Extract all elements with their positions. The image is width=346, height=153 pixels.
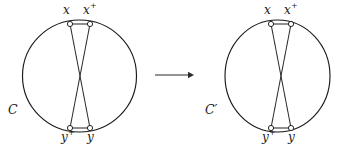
label-node-x-plus-right: x+ bbox=[284, 4, 297, 16]
label-curve-c-prime: C′ bbox=[205, 104, 217, 117]
superscript-plus-icon: + bbox=[68, 128, 75, 137]
label-node-y-plus-right: y+ bbox=[262, 131, 275, 143]
label-curve-c: C bbox=[8, 104, 18, 117]
superscript-plus-icon: + bbox=[291, 1, 298, 10]
label-node-x-plus-left: x+ bbox=[83, 4, 96, 16]
circle-c-prime-outline bbox=[225, 20, 330, 132]
node-x-plus-left[interactable] bbox=[87, 21, 92, 26]
node-x-left[interactable] bbox=[67, 21, 72, 26]
label-node-y-right: y bbox=[288, 131, 295, 143]
panel-left bbox=[23, 20, 137, 132]
label-node-y-left: y bbox=[87, 131, 94, 143]
node-x-right[interactable] bbox=[268, 21, 273, 26]
arrow-head bbox=[188, 72, 194, 78]
label-node-y-plus-left: y+ bbox=[61, 131, 74, 143]
figure-root: x x+ y+ y C x x+ y+ y C′ bbox=[0, 0, 346, 153]
superscript-plus-icon: + bbox=[90, 1, 97, 10]
label-node-x-right: x bbox=[264, 4, 271, 16]
label-node-x-left: x bbox=[63, 4, 70, 16]
transformation-arrow bbox=[155, 72, 194, 78]
node-x-plus-right[interactable] bbox=[288, 21, 293, 26]
panel-right bbox=[225, 20, 330, 132]
superscript-plus-icon: + bbox=[269, 128, 276, 137]
